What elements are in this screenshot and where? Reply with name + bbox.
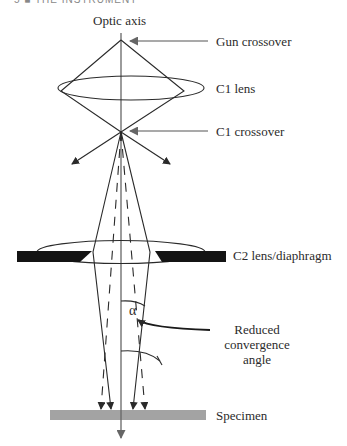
c1-lens [58, 76, 204, 100]
c2-diaphragm-left [17, 251, 92, 262]
original-angle-tick [157, 356, 162, 365]
optic-axis-label: Optic axis [93, 13, 146, 28]
divergent-ray-right [121, 132, 170, 164]
reduced-convergence-label: Reduced convergence angle [207, 322, 307, 367]
diagram-canvas [0, 0, 347, 446]
solid-ray-left [93, 132, 121, 409]
gun-beam-left [61, 40, 121, 132]
gun-crossover-label: Gun crossover [216, 34, 291, 49]
alpha-symbol: α [129, 303, 136, 318]
reduced-line-1: Reduced [207, 322, 307, 337]
c2-diaphragm-right [155, 251, 226, 262]
dashed-ray-right [121, 132, 145, 409]
c1-lens-label: C1 lens [216, 81, 255, 96]
reduced-line-2: convergence [207, 337, 307, 352]
c2-lens-label: C2 lens/diaphragm [233, 248, 332, 263]
solid-ray-right [121, 132, 150, 409]
specimen-bar [50, 410, 206, 420]
gun-beam-right [121, 40, 184, 132]
specimen-label: Specimen [216, 408, 267, 423]
c1-crossover-label: C1 crossover [216, 124, 284, 139]
reduced-line-3: angle [207, 352, 307, 367]
reduced-angle-pointer [138, 320, 210, 330]
